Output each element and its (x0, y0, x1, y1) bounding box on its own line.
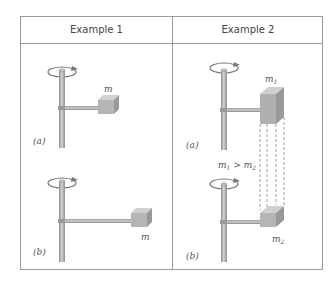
dashed-projection-lines (260, 117, 284, 210)
collar (58, 106, 66, 110)
mass-label: m (104, 84, 113, 94)
horizontal-arm (65, 219, 100, 223)
panel-label-a: (a) (186, 140, 199, 150)
collar (58, 219, 66, 223)
collar (220, 108, 228, 112)
mass-label-m2: m2 (272, 234, 285, 245)
diagram-canvas: m (a) m (b) m1 (a) m1 > m2 (0, 0, 333, 281)
example1-b-apparatus (48, 177, 152, 262)
horizontal-arm (227, 108, 260, 112)
collar (220, 220, 228, 224)
example2-b-apparatus (210, 178, 284, 262)
horizontal-arm (65, 106, 98, 110)
panel-label-b: (b) (33, 247, 46, 257)
mass-comparison: m1 > m2 (218, 160, 256, 171)
example1-a-apparatus (48, 66, 119, 148)
horizontal-arm (227, 220, 260, 224)
mass-label: m (141, 232, 150, 242)
panel-label-a: (a) (33, 136, 46, 146)
mass-label-m1: m1 (265, 74, 277, 85)
panel-label-b: (b) (186, 251, 199, 261)
